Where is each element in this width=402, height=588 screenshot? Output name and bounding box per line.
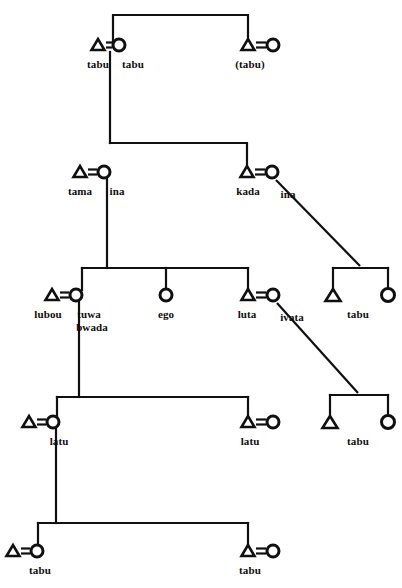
symbol-male-g4-left: [23, 416, 36, 427]
symbol-male-g4-far-right: [323, 416, 338, 428]
symbol-male-g5-right: [242, 545, 255, 556]
symbol-male-g4-right: [242, 416, 255, 427]
label-g4-far-right-pair: tabu: [347, 435, 369, 448]
symbol-male-g3-left: [46, 289, 59, 300]
symbol-male-g2-left: [74, 166, 87, 177]
symbol-male-g1-right: [242, 39, 255, 50]
label-g2-right-female: ina: [281, 188, 296, 201]
label-g3-right-male: luta: [238, 308, 257, 321]
label-g1-left-male: tabu: [87, 58, 109, 71]
label-g4-left-female: latu: [50, 435, 69, 448]
symbol-female-g2-right: [266, 166, 278, 178]
symbol-female-g3-right: [267, 289, 279, 301]
label-g3-left-male: lubou: [34, 308, 61, 321]
symbol-male-g3-far-right: [326, 289, 341, 301]
symbol-female-g4-far-right: [382, 416, 395, 429]
symbol-male-g5-left: [7, 545, 20, 556]
symbol-male-g1-left: [92, 39, 105, 50]
symbol-female-g5-left: [31, 545, 43, 557]
label-g3-far-right-pair: tabu: [347, 308, 369, 321]
label-g3-left-female-line1: tuwa: [77, 308, 101, 321]
label-g3-right-female: ivata: [280, 311, 304, 324]
symbol-female-g3-left: [70, 289, 82, 301]
label-g3-left-female-line2: bwada: [76, 321, 108, 334]
symbol-female-g4-left: [47, 416, 59, 428]
label-g5-left-female: tabu: [29, 564, 51, 577]
sibling-link-g2: [110, 143, 247, 166]
label-g1-left-female: tabu: [122, 58, 144, 71]
label-g4-right-male: latu: [241, 435, 260, 448]
label-g5-right-male: tabu: [239, 564, 261, 577]
label-g2-right-male: kada: [236, 185, 260, 198]
label-g3-ego: ego: [158, 308, 174, 321]
label-g2-left-male: tama: [68, 185, 92, 198]
kinship-diagram-canvas: [0, 0, 402, 588]
symbol-female-g5-right: [267, 545, 279, 557]
symbol-female-g2-left: [98, 166, 110, 178]
label-g1-right-male: (tabu): [235, 58, 264, 71]
label-g2-left-female: ina: [110, 185, 125, 198]
symbol-female-g4-right: [267, 416, 279, 428]
sibling-link-g1: [113, 15, 248, 45]
symbol-female-g1-left: [113, 39, 125, 51]
symbol-female-g1-right: [267, 39, 279, 51]
symbol-male-g3-right: [242, 289, 255, 300]
symbol-female-g3-far-right: [382, 289, 395, 302]
symbol-male-g2-right: [241, 166, 254, 177]
symbol-female-g3-ego: [160, 289, 172, 301]
kinship-diagram: tabu tabu (tabu) tama ina kada ina lubou…: [0, 0, 402, 588]
